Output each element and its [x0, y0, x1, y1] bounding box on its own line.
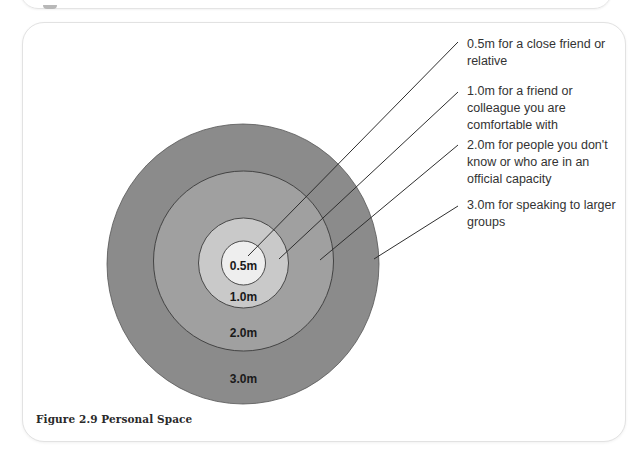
- zone-label-3m: 3.0m: [230, 372, 257, 386]
- zone-label-1m: 1.0m: [230, 290, 257, 304]
- callout-05m: 0.5m for a close friend or relative: [467, 36, 617, 70]
- leader-line-3m: [374, 206, 458, 259]
- figure-caption: Figure 2.9 Personal Space: [36, 413, 192, 425]
- callout-3m: 3.0m for speaking to larger groups: [467, 197, 617, 231]
- callout-2m: 2.0m for people you don't know or who ar…: [467, 137, 617, 188]
- zone-label-2m: 2.0m: [230, 326, 257, 340]
- zone-label-05m: 0.5m: [230, 259, 257, 273]
- callout-1m: 1.0m for a friend or colleague you are c…: [467, 83, 617, 134]
